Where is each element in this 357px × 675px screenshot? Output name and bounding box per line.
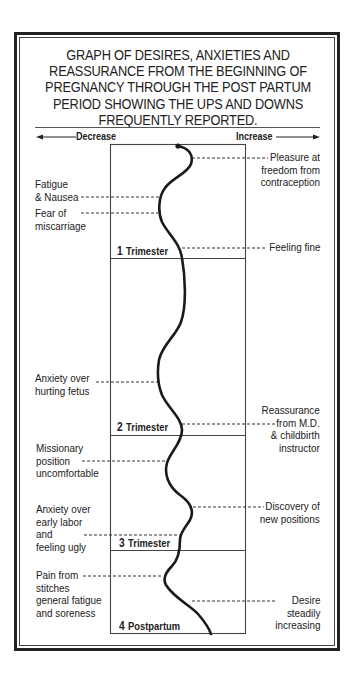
annotation-anxiety-early-labor: Anxiety over early labor and feeling ugl…: [36, 503, 90, 553]
annotation-pleasure-freedom: Pleasure at freedom from contraception: [261, 151, 320, 189]
curve-start-dot: [175, 143, 180, 148]
annotation-fatigue-nausea: Fatigue & Nausea: [35, 178, 78, 203]
annotation-desire-increasing: Desire steadily increasing: [275, 594, 320, 632]
annotation-anxiety-hurting-fetus: Anxiety over hurting fetus: [35, 372, 89, 397]
annotation-discovery-new-positions: Discovery of new positions: [260, 500, 320, 525]
period-1-label: 1Trimester: [117, 244, 168, 258]
annotation-missionary-position: Missionary position uncomfortable: [36, 442, 99, 480]
desire-curve: [158, 146, 211, 634]
period-2-label: 2Trimester: [117, 420, 168, 434]
period-3-label: 3Trimester: [119, 536, 170, 550]
increase-arrow-icon: [276, 135, 320, 140]
annotation-pain-from-stitches: Pain from stitches general fatigue and s…: [36, 569, 101, 619]
period-box: [111, 145, 246, 634]
annotation-reassurance: Reassurance from M.D. & childbirth instr…: [262, 404, 320, 454]
annotation-feeling-fine: Feeling fine: [269, 241, 320, 254]
decrease-arrow-icon: [36, 135, 76, 140]
period-4-label: 4Postpartum: [119, 619, 180, 633]
annotation-fear-of-miscarriage: Fear of miscarriage: [35, 207, 86, 232]
